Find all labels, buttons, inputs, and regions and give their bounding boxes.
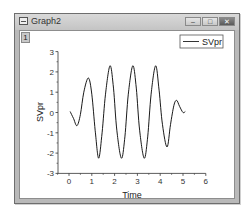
x-tick-label: 1 xyxy=(90,177,95,186)
x-axis-title[interactable]: Time xyxy=(122,190,142,200)
y-axis-title[interactable]: SVpr xyxy=(35,102,45,122)
y-tick-label: 0 xyxy=(50,109,55,118)
line-plot[interactable]: -3-2-101230123456 SVpr Time SVpr xyxy=(0,0,250,215)
y-tick-label: -1 xyxy=(47,129,55,138)
x-tick-label: 5 xyxy=(181,177,186,186)
x-tick-label: 3 xyxy=(135,177,140,186)
y-tick-label: 2 xyxy=(50,68,55,77)
x-tick-label: 2 xyxy=(112,177,117,186)
legend-label: SVpr xyxy=(202,37,222,47)
y-tick-label: 1 xyxy=(50,88,55,97)
legend[interactable]: SVpr xyxy=(180,35,223,48)
svpr-series-line[interactable] xyxy=(70,66,185,159)
y-tick-label: -3 xyxy=(47,169,55,178)
y-tick-label: -2 xyxy=(47,149,55,158)
x-tick-label: 6 xyxy=(204,177,209,186)
y-tick-label: 3 xyxy=(50,48,55,57)
x-tick-label: 4 xyxy=(158,177,163,186)
axes: -3-2-101230123456 xyxy=(47,48,209,187)
x-tick-label: 0 xyxy=(67,177,72,186)
